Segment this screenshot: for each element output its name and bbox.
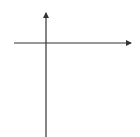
graph (0, 0, 140, 137)
